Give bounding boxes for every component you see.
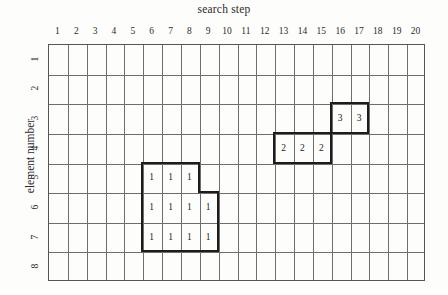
grid-cell-r4-c13[interactable]: 2	[274, 133, 293, 163]
block-1-edge-right	[217, 221, 219, 253]
x-tick-label-7: 7	[161, 26, 180, 36]
block-1-edge-left	[141, 221, 143, 253]
grid-line-vertical	[238, 45, 239, 280]
block-1-edge-left	[141, 191, 143, 223]
x-tick-label-12: 12	[255, 26, 274, 36]
grid-cell-r6-c6[interactable]: 1	[142, 192, 161, 222]
grid-line-vertical	[256, 45, 257, 280]
grid-line-vertical	[351, 45, 352, 280]
grid-line-horizontal	[49, 134, 424, 135]
block-3-edge-top	[330, 102, 351, 104]
grid-line-vertical	[87, 45, 88, 280]
x-tick-label-15: 15	[312, 26, 331, 36]
x-tick-label-4: 4	[105, 26, 124, 36]
block-1-edge-top	[160, 162, 181, 164]
grid-cell-r3-c17[interactable]: 3	[350, 103, 369, 133]
x-axis-title: search step	[0, 3, 448, 15]
grid-line-vertical	[332, 45, 333, 280]
block-1-edge-top	[141, 162, 162, 164]
block-1-edge-bottom	[179, 250, 200, 252]
y-tick-label-4: 4	[27, 133, 43, 163]
block-3-edge-top	[349, 102, 370, 104]
grid-line-vertical	[68, 45, 69, 280]
x-tick-label-11: 11	[237, 26, 256, 36]
grid-cell-r7-c8[interactable]: 1	[180, 222, 199, 252]
x-tick-label-18: 18	[368, 26, 387, 36]
grid-cell-r7-c9[interactable]: 1	[199, 222, 218, 252]
grid-cell-r7-c7[interactable]: 1	[161, 222, 180, 252]
x-tick-label-9: 9	[199, 26, 218, 36]
x-tick-label-13: 13	[274, 26, 293, 36]
grid-line-vertical	[388, 45, 389, 280]
block-1-edge-top	[198, 191, 219, 193]
grid-cell-r6-c9[interactable]: 1	[199, 192, 218, 222]
x-tick-label-20: 20	[406, 26, 425, 36]
y-tick-label-8: 8	[27, 251, 43, 281]
grid-cell-r4-c15[interactable]: 2	[312, 133, 331, 163]
block-2-edge-left	[273, 132, 275, 164]
y-tick-label-7: 7	[27, 222, 43, 252]
block-2-edge-top	[273, 132, 294, 134]
block-2-edge-bottom	[311, 162, 332, 164]
x-tick-label-3: 3	[86, 26, 105, 36]
grid-line-vertical	[106, 45, 107, 280]
block-2-edge-top	[311, 132, 332, 134]
y-tick-label-3: 3	[27, 103, 43, 133]
block-1-edge-left	[141, 162, 143, 194]
grid-line-horizontal	[49, 75, 424, 76]
block-1-edge-bottom	[160, 250, 181, 252]
grid-line-horizontal	[49, 193, 424, 194]
x-tick-label-16: 16	[331, 26, 350, 36]
y-tick-label-5: 5	[27, 163, 43, 193]
grid-line-vertical	[124, 45, 125, 280]
grid-cell-r5-c7[interactable]: 1	[161, 163, 180, 193]
block-3-edge-bottom	[330, 132, 351, 134]
block-2-edge-top	[292, 132, 313, 134]
block-2-edge-bottom	[292, 162, 313, 164]
block-2-edge-right	[330, 132, 332, 164]
x-tick-label-5: 5	[123, 26, 142, 36]
x-tick-label-19: 19	[387, 26, 406, 36]
grid-cell-r4-c14[interactable]: 2	[293, 133, 312, 163]
block-3-edge-right	[367, 102, 369, 134]
x-tick-label-1: 1	[48, 26, 67, 36]
block-1-edge-top	[179, 162, 200, 164]
block-1-edge-right	[198, 162, 200, 194]
x-tick-label-8: 8	[180, 26, 199, 36]
grid-line-horizontal	[49, 252, 424, 253]
grid-cell-r6-c8[interactable]: 1	[180, 192, 199, 222]
block-1-edge-bottom	[141, 250, 162, 252]
x-tick-label-2: 2	[67, 26, 86, 36]
grid-line-horizontal	[49, 223, 424, 224]
grid-line-vertical	[219, 45, 220, 280]
x-tick-label-6: 6	[142, 26, 161, 36]
grid-lines	[48, 44, 425, 281]
x-tick-label-17: 17	[350, 26, 369, 36]
grid-line-horizontal	[49, 164, 424, 165]
grid-cell-r6-c7[interactable]: 1	[161, 192, 180, 222]
block-3-edge-left	[330, 102, 332, 134]
grid-line-vertical	[369, 45, 370, 280]
block-1-edge-bottom	[198, 250, 219, 252]
y-tick-label-6: 6	[27, 192, 43, 222]
grid-cell-r7-c6[interactable]: 1	[142, 222, 161, 252]
grid-area: 1111111111122233	[48, 44, 425, 281]
x-tick-label-14: 14	[293, 26, 312, 36]
y-tick-label-2: 2	[27, 74, 43, 104]
grid-line-vertical	[407, 45, 408, 280]
grid-cell-r3-c16[interactable]: 3	[331, 103, 350, 133]
block-3-edge-bottom	[349, 132, 370, 134]
block-1-edge-right	[217, 191, 219, 223]
grid-cell-r5-c8[interactable]: 1	[180, 163, 199, 193]
y-tick-label-1: 1	[27, 44, 43, 74]
x-tick-label-10: 10	[218, 26, 237, 36]
block-2-edge-bottom	[273, 162, 294, 164]
grid-cell-r5-c6[interactable]: 1	[142, 163, 161, 193]
search-step-grid-figure: search step element number 1234567891011…	[0, 0, 448, 295]
